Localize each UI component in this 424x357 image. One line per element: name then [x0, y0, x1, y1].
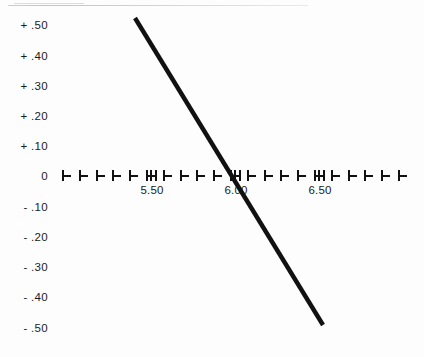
- x-axis-ruler: 5.506.006.50: [0, 0, 424, 357]
- x-axis-minor-tick: [180, 170, 182, 181]
- x-axis-major-tick: [239, 170, 241, 181]
- x-axis-minor-tick: [247, 170, 249, 181]
- x-axis-minor-tick: [297, 170, 299, 181]
- x-axis-tick-label: 6.50: [308, 184, 331, 196]
- chart-figure: + .50+ .40+ .30+ .20+ .100- .10- .20- .3…: [0, 0, 424, 357]
- x-axis-minor-tick: [230, 170, 232, 181]
- x-axis-major-tick: [155, 170, 157, 181]
- x-axis-tick-label: 5.50: [140, 184, 163, 196]
- x-axis-minor-tick: [196, 170, 198, 181]
- x-axis-minor-tick: [264, 170, 266, 181]
- x-axis-major-tick: [234, 170, 236, 181]
- x-axis-minor-tick: [163, 170, 165, 181]
- x-axis-minor-tick: [280, 170, 282, 181]
- x-axis-minor-tick: [364, 170, 366, 181]
- x-axis-major-tick: [318, 170, 320, 181]
- x-axis-minor-tick: [381, 170, 383, 181]
- x-axis-minor-tick: [112, 170, 114, 181]
- x-axis-major-tick: [150, 170, 152, 181]
- x-axis-tick-label: 6.00: [224, 184, 247, 196]
- x-axis-minor-tick: [96, 170, 98, 181]
- x-axis-minor-tick: [62, 170, 64, 181]
- x-axis-minor-tick: [314, 170, 316, 181]
- x-axis-minor-tick: [146, 170, 148, 181]
- x-axis-minor-tick: [79, 170, 81, 181]
- x-axis-minor-tick: [398, 170, 400, 181]
- x-axis-major-tick: [323, 170, 325, 181]
- x-axis-minor-tick: [213, 170, 215, 181]
- x-axis-minor-tick: [129, 170, 131, 181]
- x-axis-minor-tick: [348, 170, 350, 181]
- x-axis-minor-tick: [331, 170, 333, 181]
